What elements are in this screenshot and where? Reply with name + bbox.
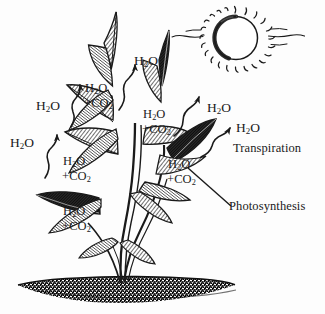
label-combo-center: H2O +CO2	[143, 108, 171, 137]
plant-figure	[37, 12, 216, 283]
label-transpiration: Transpiration	[233, 142, 301, 155]
arrow-h2o-far-left	[45, 135, 57, 178]
label-h2o-right-lower: H2O	[236, 121, 260, 136]
label-h2o-right-upper: H2O	[207, 101, 231, 116]
label-h2o-upper-left: H2O	[36, 99, 60, 114]
label-h2o-far-left: H2O	[10, 136, 34, 151]
label-combo-upper-left: H2O +CO2	[85, 82, 113, 111]
photosynthesis-diagram: H2O H2O H2O H2O H2O H2O +CO2 H2O +CO2 H2…	[0, 0, 325, 314]
label-h2o-top-center: H2O	[134, 54, 158, 69]
soil-fill	[18, 276, 235, 303]
label-photosynthesis: Photosynthesis	[229, 200, 305, 213]
soil-ground	[18, 276, 236, 303]
leaf	[159, 30, 169, 86]
leaf	[79, 238, 118, 258]
diagram-canvas	[0, 0, 325, 314]
label-combo-lower-left: H2O +CO2	[63, 205, 91, 234]
label-combo-mid-left: H2O +CO2	[63, 155, 91, 184]
label-combo-mid-right: H2O +CO2	[168, 158, 196, 187]
arrow-h2o-top-center	[119, 65, 135, 110]
sun-icon	[172, 6, 305, 72]
